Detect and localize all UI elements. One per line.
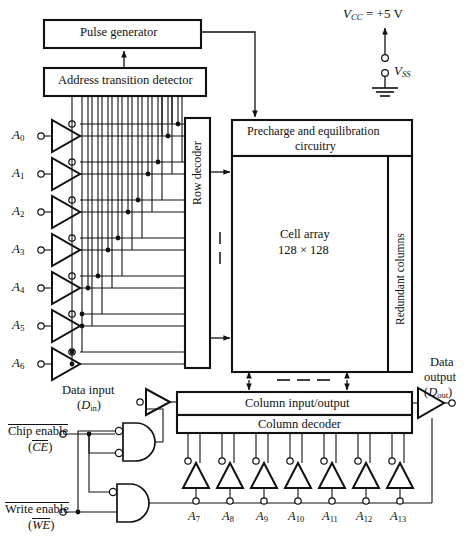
data-output-label-line2: output bbox=[424, 370, 456, 385]
row-addr-sub-1: 1 bbox=[20, 171, 24, 181]
col-addr-sym-13: A bbox=[390, 509, 398, 523]
col-addr-sym-9: A bbox=[256, 509, 264, 523]
row-address-label-5: A5 bbox=[12, 317, 24, 333]
row-decoder-text: Row decoder bbox=[190, 141, 204, 205]
row-address-label-3: A3 bbox=[12, 241, 24, 257]
vss-symbol: V bbox=[394, 63, 402, 78]
row-address-pins bbox=[38, 133, 44, 367]
col-addr-sym-8: A bbox=[222, 509, 230, 523]
nand-top-input-bubble-1 bbox=[115, 427, 122, 434]
vcc-value: = +5 V bbox=[366, 6, 403, 21]
din-symbol: D bbox=[81, 398, 90, 412]
cell-array-label-line2: 128 × 128 bbox=[278, 243, 329, 258]
write-enable-text: Write enable bbox=[5, 502, 69, 516]
row-addr-sub-4: 4 bbox=[20, 285, 24, 295]
row-addr-sub-3: 3 bbox=[20, 247, 24, 257]
redundant-columns-label: Redundant columns bbox=[394, 233, 406, 325]
cell-array-label-line1: Cell array bbox=[280, 227, 330, 242]
pulse-generator-label: Pulse generator bbox=[80, 25, 157, 40]
data-input-label: Data input bbox=[62, 383, 114, 398]
column-address-inverters bbox=[183, 463, 413, 488]
row-addr-sym-3: A bbox=[12, 241, 20, 256]
data-input-symbol-label: (Din) bbox=[77, 398, 101, 413]
row-address-label-1: A1 bbox=[12, 165, 24, 181]
row-addr-sym-1: A bbox=[12, 165, 20, 180]
nand-gate-bottom bbox=[117, 484, 149, 522]
vss-label: VSS bbox=[394, 63, 411, 79]
vss-terminal bbox=[382, 70, 389, 77]
col-addr-sub-8: 8 bbox=[230, 514, 234, 524]
chip-enable-label: Chip enable bbox=[8, 424, 68, 439]
row-address-label-6: A6 bbox=[12, 355, 24, 371]
column-io-label: Column input/output bbox=[245, 396, 350, 411]
write-enable-symbol-label: (WE) bbox=[28, 518, 54, 533]
col-addr-sub-7: 7 bbox=[196, 514, 200, 524]
col-addr-sym-11: A bbox=[322, 509, 330, 523]
vcc-subscript: CC bbox=[351, 12, 363, 22]
bus-junction-dots bbox=[70, 122, 181, 367]
row-addr-sub-2: 2 bbox=[20, 209, 24, 219]
column-address-label-8: A8 bbox=[222, 509, 234, 524]
ce-symbol: CE bbox=[32, 440, 48, 454]
row-addr-sub-6: 6 bbox=[20, 361, 24, 371]
write-enable-label: Write enable bbox=[5, 502, 69, 517]
data-output-symbol-label: (Dout) bbox=[424, 385, 452, 400]
col-addr-sym-7: A bbox=[188, 509, 196, 523]
data-output-label-line1: Data bbox=[430, 355, 454, 370]
chip-enable-text: Chip enable bbox=[8, 424, 68, 438]
data-output-pin bbox=[449, 400, 455, 406]
row-addr-sym-5: A bbox=[12, 317, 20, 332]
row-address-label-2: A2 bbox=[12, 203, 24, 219]
nand-gate-top bbox=[123, 423, 155, 461]
address-transition-detector-label: Address transition detector bbox=[58, 73, 193, 88]
dout-subscript: out bbox=[437, 390, 448, 400]
row-addr-sub-0: 0 bbox=[20, 133, 24, 143]
column-decoder-label: Column decoder bbox=[258, 417, 341, 432]
nand-top-input-bubble-2 bbox=[115, 449, 122, 456]
column-inverter-bubbles bbox=[185, 458, 395, 464]
cell-array-box bbox=[232, 156, 412, 372]
redundant-columns-text: Redundant columns bbox=[394, 233, 406, 325]
col-addr-sub-12: 12 bbox=[364, 514, 373, 524]
vcc-terminal bbox=[382, 55, 389, 62]
row-addr-sym-0: A bbox=[12, 127, 20, 142]
din-subscript: in bbox=[90, 403, 97, 413]
col-addr-sym-10: A bbox=[288, 509, 296, 523]
column-address-label-7: A7 bbox=[188, 509, 200, 524]
col-addr-sym-12: A bbox=[356, 509, 364, 523]
column-address-label-11: A11 bbox=[322, 509, 338, 524]
sram-block-diagram: Pulse generator Address transition detec… bbox=[0, 0, 470, 540]
vcc-symbol: V bbox=[343, 6, 351, 21]
ground-symbol bbox=[372, 88, 398, 96]
col-addr-sub-13: 13 bbox=[398, 514, 407, 524]
column-address-label-9: A9 bbox=[256, 509, 268, 524]
row-address-inverters bbox=[52, 120, 80, 380]
vcc-label: VCC = +5 V bbox=[343, 6, 403, 22]
vss-subscript: SS bbox=[402, 69, 411, 79]
column-address-label-13: A13 bbox=[390, 509, 406, 524]
data-input-pin bbox=[137, 399, 143, 405]
precharge-label-line1: Precharge and equilibration bbox=[247, 124, 379, 139]
dout-symbol: D bbox=[428, 385, 437, 399]
we-symbol: WE bbox=[32, 518, 50, 532]
column-address-label-12: A12 bbox=[356, 509, 372, 524]
row-address-label-4: A4 bbox=[12, 279, 24, 295]
col-addr-sub-9: 9 bbox=[264, 514, 268, 524]
col-addr-sub-11: 11 bbox=[330, 514, 338, 524]
row-decoder-label: Row decoder bbox=[190, 141, 205, 205]
chip-enable-symbol-label: (CE) bbox=[28, 440, 52, 455]
row-addr-sym-6: A bbox=[12, 355, 20, 370]
col-addr-sub-10: 10 bbox=[296, 514, 305, 524]
row-addr-sym-4: A bbox=[12, 279, 20, 294]
data-input-buffer bbox=[146, 389, 170, 415]
row-address-label-0: A0 bbox=[12, 127, 24, 143]
nand-bottom-input-bubble bbox=[109, 488, 116, 495]
row-addr-sub-5: 5 bbox=[20, 323, 24, 333]
precharge-label-line2: circuitry bbox=[295, 139, 336, 154]
row-addr-sym-2: A bbox=[12, 203, 20, 218]
column-address-label-10: A10 bbox=[288, 509, 304, 524]
